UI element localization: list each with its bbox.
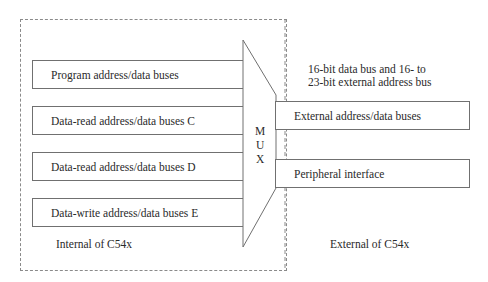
external-label: External of C54x — [330, 238, 409, 250]
mux-letter-x: X — [256, 153, 264, 165]
internal-label: Internal of C54x — [56, 238, 132, 250]
bus-width-annotation-line1: 16-bit data bus and 16- to — [308, 63, 426, 75]
peripheral-interface-label: Peripheral interface — [294, 168, 384, 180]
bus-width-annotation-line2: 23-bit external address bus — [308, 76, 432, 88]
mux-letter-m: M — [255, 125, 265, 137]
peripheral-interface-box: Peripheral interface — [275, 159, 470, 188]
external-bus-label: External address/data buses — [294, 110, 421, 122]
external-bus-box: External address/data buses — [275, 101, 470, 130]
mux-letter-u: U — [256, 139, 264, 151]
